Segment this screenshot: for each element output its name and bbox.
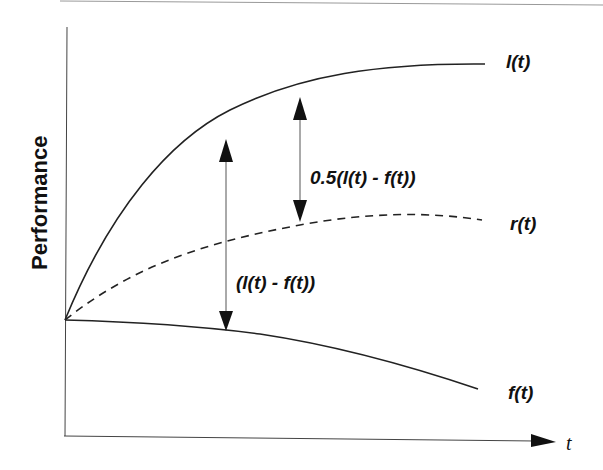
curve-r bbox=[65, 215, 482, 320]
y-axis-label: Performance bbox=[27, 135, 53, 270]
y-axis bbox=[65, 27, 67, 436]
label-f: f(t) bbox=[508, 382, 533, 404]
x-axis bbox=[64, 436, 535, 441]
full-gap-label: (l(t) - f(t)) bbox=[236, 272, 315, 294]
arrow-up-icon bbox=[293, 97, 307, 120]
curve-f bbox=[65, 320, 478, 389]
top-border bbox=[60, 1, 603, 5]
arrow-down-icon bbox=[293, 200, 307, 222]
x-axis-arrowhead-icon bbox=[531, 434, 556, 447]
arrow-down-icon bbox=[219, 311, 233, 331]
arrow-up-icon bbox=[219, 139, 233, 162]
label-r: r(t) bbox=[510, 213, 536, 235]
half-gap-label: 0.5(l(t) - f(t)) bbox=[310, 167, 416, 189]
x-axis-label: t bbox=[566, 432, 572, 455]
label-l: l(t) bbox=[506, 51, 530, 73]
